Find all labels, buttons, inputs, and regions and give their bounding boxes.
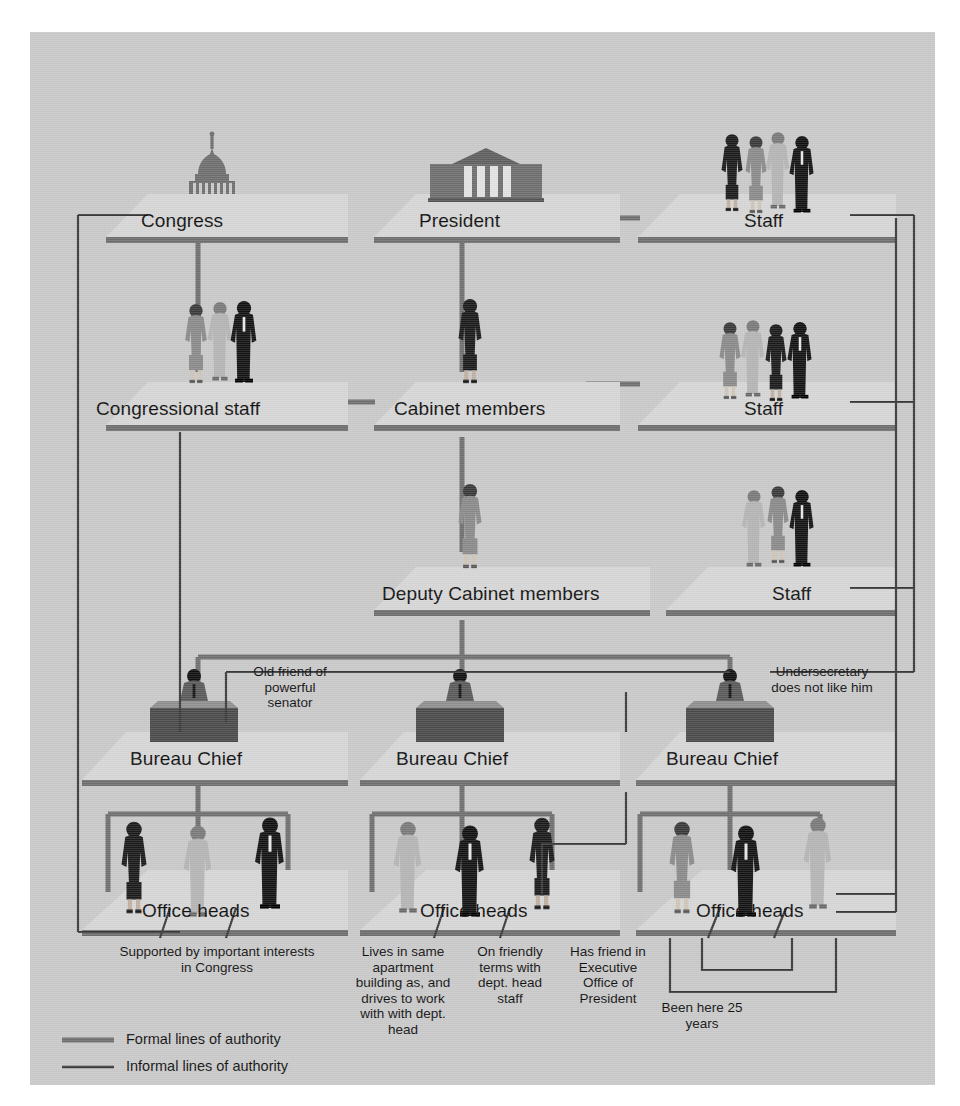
- poster-page: Congress President Staff Congressional s…: [0, 0, 960, 1106]
- legend-lines: [30, 32, 935, 1085]
- diagram-canvas: Congress President Staff Congressional s…: [30, 32, 935, 1085]
- legend-label-informal: Informal lines of authority: [126, 1058, 288, 1074]
- legend-label-formal: Formal lines of authority: [126, 1031, 281, 1047]
